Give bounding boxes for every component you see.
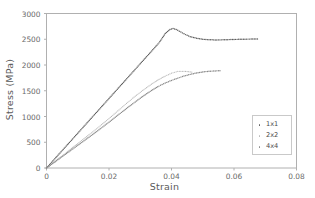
series-1x1 <box>46 28 258 169</box>
series-2x2 <box>46 71 193 169</box>
x-tick-label: 0.04 <box>155 172 189 181</box>
legend-entry-1x1[interactable]: 1x1 <box>256 119 291 130</box>
y-tick-label: 1500 <box>13 87 41 96</box>
legend-entry-2x2[interactable]: 2x2 <box>256 130 291 141</box>
legend-label: 1x1 <box>266 121 278 128</box>
x-tick-label: 0 <box>30 172 64 181</box>
plot-canvas <box>0 0 315 198</box>
legend-label: 2x2 <box>266 132 278 139</box>
y-axis-title: Stress (MPa) <box>4 50 15 130</box>
y-tick-label: 3000 <box>13 10 41 19</box>
x-tick-label: 0.08 <box>280 172 314 181</box>
x-axis-title: Strain <box>0 181 315 192</box>
y-tick-label: 2500 <box>13 35 41 44</box>
x-tick-label: 0.02 <box>92 172 126 181</box>
x-tick-label: 0.06 <box>217 172 251 181</box>
legend-marker-icon <box>256 121 263 128</box>
series-4x4 <box>46 70 221 169</box>
y-tick-label: 2000 <box>13 61 41 70</box>
y-tick-label: 500 <box>13 138 41 147</box>
y-tick-label: 1000 <box>13 113 41 122</box>
data-series-layer <box>46 28 258 169</box>
legend-entry-4x4[interactable]: 4x4 <box>256 141 291 152</box>
legend-marker-icon <box>256 132 263 139</box>
legend-marker-icon <box>256 143 263 150</box>
stress-strain-chart: 050010001500200025003000 00.020.040.060.… <box>0 0 315 198</box>
legend-label: 4x4 <box>266 143 278 150</box>
chart-legend[interactable]: 1x12x24x4 <box>252 115 292 155</box>
